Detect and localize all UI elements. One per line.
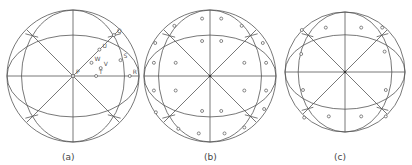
pole-point	[152, 89, 155, 92]
pole-point	[223, 132, 226, 135]
panel-c	[285, 12, 405, 132]
pole-point	[383, 50, 386, 53]
center-point	[344, 71, 347, 74]
pole-point	[174, 61, 177, 64]
pole-point	[384, 89, 387, 92]
pole-point	[265, 89, 268, 92]
caption-c: (c)	[334, 152, 346, 162]
pole-point	[201, 17, 204, 20]
pole-point	[220, 17, 223, 20]
caption-b: (b)	[204, 152, 217, 162]
pole-point	[303, 116, 306, 119]
pole-point	[177, 127, 180, 130]
pole-point	[381, 26, 384, 29]
pole-point	[173, 24, 176, 27]
pole-point	[197, 132, 200, 135]
pole-point	[302, 89, 305, 92]
pole-point	[90, 61, 93, 64]
point-label-q: Q	[117, 27, 122, 34]
center-point	[209, 75, 212, 78]
pole-point	[220, 109, 223, 112]
point-label-t: T	[98, 68, 103, 75]
pole-point	[324, 26, 327, 29]
pole-point	[261, 42, 264, 45]
pole-point	[98, 48, 101, 51]
pole-point	[119, 59, 122, 62]
pole-point	[112, 34, 115, 37]
stereographic-projection-figure: QUWVSRTP (a) (b) (c)	[0, 0, 412, 165]
pole-point	[95, 75, 98, 78]
point-label-u: U	[102, 42, 106, 49]
pole-point	[243, 61, 246, 64]
point-label-p: P	[76, 68, 80, 75]
point-label-r: R	[133, 68, 137, 75]
pole-point	[174, 89, 177, 92]
pole-point	[220, 40, 223, 43]
pole-point	[243, 126, 246, 129]
pole-point	[72, 75, 75, 78]
panel-a: QUWVSRTP	[7, 10, 139, 142]
pole-point	[240, 24, 243, 27]
caption-a: (a)	[62, 152, 75, 162]
pole-point	[152, 61, 155, 64]
pole-point	[360, 115, 363, 118]
pole-point	[300, 29, 303, 32]
pole-point	[263, 108, 266, 111]
pole-point	[154, 42, 157, 45]
pole-point	[154, 111, 157, 114]
panel-b	[144, 10, 276, 142]
pole-point	[384, 115, 387, 118]
pole-point	[265, 61, 268, 64]
point-label-s: S	[124, 52, 128, 59]
pole-point	[360, 26, 363, 29]
pole-point	[327, 115, 330, 118]
point-label-v: V	[104, 60, 109, 67]
pole-point	[128, 75, 131, 78]
pole-point	[201, 40, 204, 43]
pole-point	[300, 53, 303, 56]
pole-point	[243, 89, 246, 92]
pole-point	[201, 109, 204, 112]
point-label-w: W	[94, 55, 100, 62]
